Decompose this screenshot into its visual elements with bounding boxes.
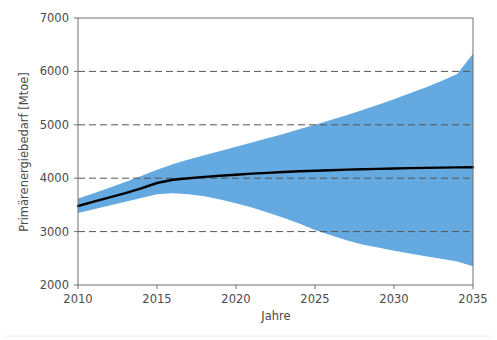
x-tick-label-2010: 2010: [63, 292, 92, 306]
x-axis-title: Jahre: [260, 309, 290, 323]
x-tick-label-2020: 2020: [221, 292, 250, 306]
y-axis-ticks: [74, 18, 78, 285]
x-tick-label-2030: 2030: [379, 292, 408, 306]
y-tick-label-6000: 6000: [40, 64, 69, 78]
chart-page: 200030004000500060007000 201020152020202…: [0, 0, 497, 340]
y-tick-label-2000: 2000: [40, 278, 69, 292]
y-axis-title: Primärenergiebedarf [Mtoe]: [17, 72, 31, 232]
x-tick-label-2015: 2015: [142, 292, 171, 306]
x-axis-ticks: [78, 285, 473, 289]
y-tick-label-3000: 3000: [40, 225, 69, 239]
y-tick-label-7000: 7000: [40, 11, 69, 25]
y-tick-label-5000: 5000: [40, 118, 69, 132]
x-axis-tick-labels: 201020152020202520302035: [63, 292, 487, 306]
y-axis-tick-labels: 200030004000500060007000: [40, 11, 69, 292]
y-tick-label-4000: 4000: [40, 171, 69, 185]
x-tick-label-2035: 2035: [458, 292, 487, 306]
x-tick-label-2025: 2025: [300, 292, 329, 306]
primary-energy-demand-chart: 200030004000500060007000 201020152020202…: [0, 0, 497, 340]
